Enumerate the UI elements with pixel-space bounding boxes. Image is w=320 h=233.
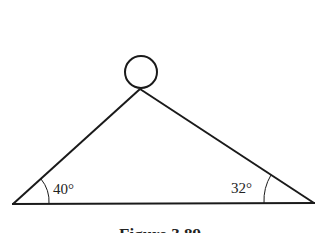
left-rope bbox=[13, 89, 140, 204]
right-rope bbox=[140, 89, 314, 203]
left-angle-label: 40° bbox=[53, 181, 74, 197]
base-line bbox=[12, 203, 315, 204]
right-angle-arc bbox=[264, 175, 271, 203]
right-angle-label: 32° bbox=[231, 180, 252, 196]
figure: 40° 32° Figure 3.89 bbox=[0, 0, 320, 233]
mass-circle bbox=[125, 56, 157, 88]
left-angle-arc bbox=[41, 179, 49, 204]
figure-caption: Figure 3.89 bbox=[119, 225, 201, 233]
